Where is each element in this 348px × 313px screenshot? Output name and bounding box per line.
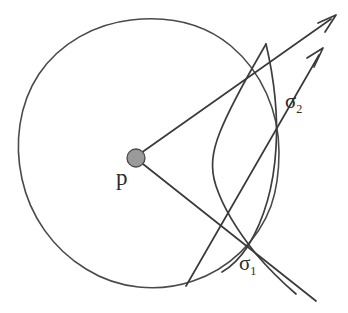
- label-sigma-2: σ2: [285, 91, 302, 120]
- upper-ray-from-p: [141, 19, 331, 153]
- secondary-ray-arrowhead-icon: [307, 48, 323, 67]
- label-sigma-1: σ1: [239, 253, 256, 282]
- label-sigma-2-base: σ: [285, 89, 296, 113]
- figure-root: p σ2 σ1: [0, 0, 348, 313]
- label-point-p: p: [116, 166, 128, 189]
- sigma-curve: [222, 44, 277, 272]
- point-p-marker: [127, 149, 145, 167]
- upper-ray-arrowhead-icon: [318, 15, 336, 32]
- label-sigma-1-subscript: 1: [250, 264, 256, 278]
- label-sigma-2-subscript: 2: [296, 102, 302, 116]
- main-circle: [18, 19, 279, 288]
- lower-ray-from-p: [143, 164, 316, 301]
- label-sigma-1-base: σ: [239, 251, 250, 275]
- diagram-canvas: [0, 0, 348, 313]
